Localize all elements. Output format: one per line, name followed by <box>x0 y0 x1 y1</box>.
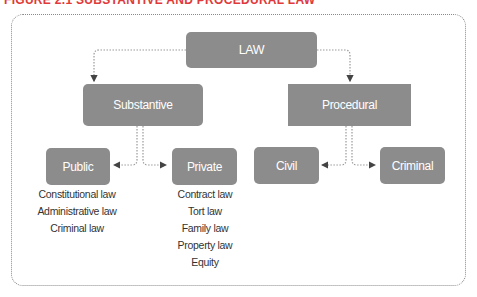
node-law: LAW <box>186 32 317 68</box>
node-criminal-label: Criminal <box>392 159 434 173</box>
list-item: Property law <box>150 237 260 254</box>
list-item: Family law <box>150 220 260 237</box>
node-criminal: Criminal <box>380 147 445 184</box>
node-public-label: Public <box>63 160 94 174</box>
list-item: Criminal law <box>22 220 132 237</box>
node-substantive: Substantive <box>83 84 203 126</box>
list-item: Constitutional law <box>22 186 132 203</box>
list-item: Administrative law <box>22 203 132 220</box>
node-civil: Civil <box>254 147 319 184</box>
list-item: Contract law <box>150 186 260 203</box>
private-law-list: Contract law Tort law Family law Propert… <box>150 186 260 271</box>
node-procedural: Procedural <box>288 84 411 126</box>
node-private: Private <box>172 148 237 185</box>
node-private-label: Private <box>187 160 222 174</box>
node-public: Public <box>46 148 110 185</box>
node-civil-label: Civil <box>276 159 297 173</box>
node-law-label: LAW <box>239 43 265 57</box>
node-substantive-label: Substantive <box>113 98 172 112</box>
node-procedural-label: Procedural <box>322 98 377 112</box>
list-item: Tort law <box>150 203 260 220</box>
list-item: Equity <box>150 254 260 271</box>
public-law-list: Constitutional law Administrative law Cr… <box>22 186 132 237</box>
